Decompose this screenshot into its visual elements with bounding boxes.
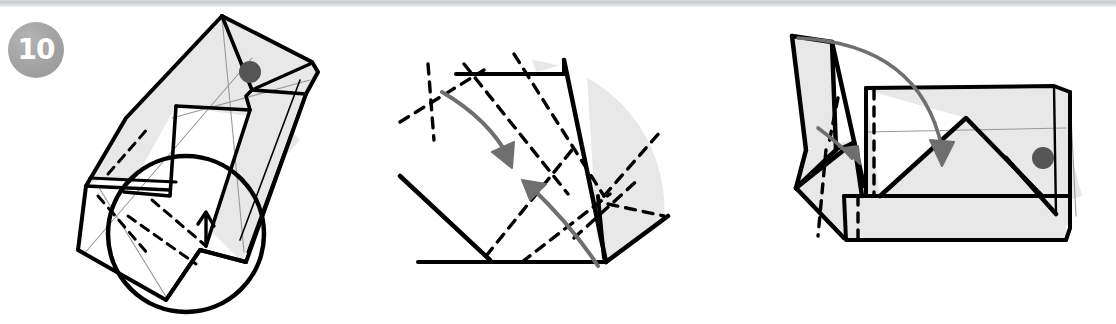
step-number-badge: 10 xyxy=(8,22,64,78)
origami-step-page: 10 xyxy=(0,0,1116,324)
diagram-panel-left: 10 xyxy=(0,0,380,324)
reference-dot xyxy=(1032,147,1054,169)
diagram-panel-right xyxy=(770,0,1116,324)
box-front-face xyxy=(844,196,1066,240)
badge-number-text: 10 xyxy=(8,22,64,78)
right-diagram-svg xyxy=(770,0,1116,324)
reference-dot xyxy=(239,61,261,83)
diagram-panel-middle xyxy=(372,0,716,324)
middle-diagram-svg xyxy=(372,0,716,324)
